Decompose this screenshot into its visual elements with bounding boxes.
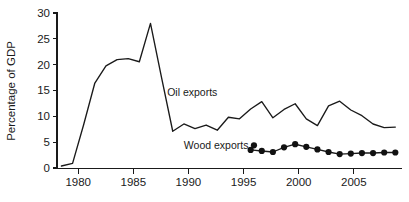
data-point bbox=[259, 148, 265, 154]
x-tick-label-1985: 1985 bbox=[121, 176, 147, 188]
x-tick-marks bbox=[78, 169, 354, 174]
data-point bbox=[392, 149, 398, 155]
y-tick-label-0: 0 bbox=[44, 162, 50, 174]
data-point bbox=[281, 144, 287, 150]
oil-exports-annotation: Oil exports bbox=[167, 86, 217, 98]
wood-exports-annotation: Wood exports bbox=[184, 139, 249, 151]
data-point bbox=[303, 144, 309, 150]
y-tick-labels: 0 5 10 15 20 25 30 bbox=[37, 7, 50, 174]
chart-figure: Percentage of GDP 0 5 10 15 20 25 30 bbox=[0, 0, 409, 202]
data-point bbox=[314, 146, 320, 152]
y-tick-label-15: 15 bbox=[37, 84, 50, 96]
y-tick-label-20: 20 bbox=[37, 59, 50, 71]
y-tick-label-30: 30 bbox=[37, 7, 50, 19]
y-tick-label-5: 5 bbox=[44, 136, 50, 148]
x-tick-label-1990: 1990 bbox=[176, 176, 202, 188]
wood-exports-legend-dot bbox=[251, 142, 257, 148]
data-point bbox=[292, 141, 298, 147]
data-point bbox=[370, 150, 376, 156]
x-tick-label-2005: 2005 bbox=[341, 176, 367, 188]
y-tick-label-10: 10 bbox=[37, 110, 50, 122]
x-tick-label-2000: 2000 bbox=[286, 176, 312, 188]
chart-canvas: Percentage of GDP 0 5 10 15 20 25 30 bbox=[0, 0, 409, 202]
y-tick-marks bbox=[53, 13, 58, 168]
data-point bbox=[325, 149, 331, 155]
x-tick-labels: 1980 1985 1990 1995 2000 2005 bbox=[65, 176, 366, 188]
y-tick-label-25: 25 bbox=[37, 33, 50, 45]
x-tick-label-1980: 1980 bbox=[65, 176, 91, 188]
y-axis-title: Percentage of GDP bbox=[5, 41, 17, 141]
data-point bbox=[381, 149, 387, 155]
data-point bbox=[359, 150, 365, 156]
x-tick-label-1995: 1995 bbox=[231, 176, 257, 188]
data-point bbox=[348, 150, 354, 156]
data-point bbox=[337, 151, 343, 157]
data-point bbox=[270, 149, 276, 155]
